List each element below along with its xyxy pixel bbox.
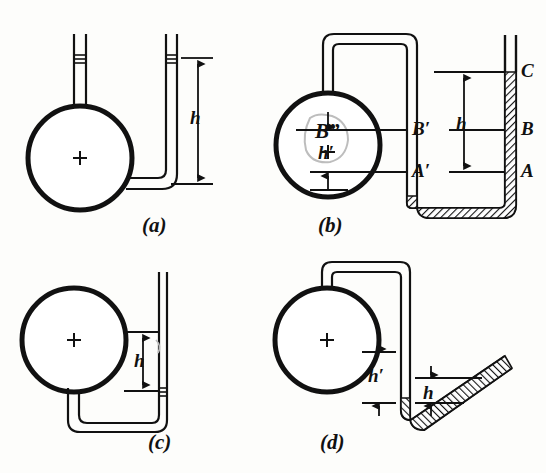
panel-caption-c: (c) (148, 430, 171, 455)
panel-b-drawing (276, 34, 516, 218)
panel-a-left-tube-constriction (74, 55, 86, 63)
panel-b-level-a-prime-label: A′ (412, 160, 430, 182)
panel-c-drawing (22, 272, 167, 432)
panel-caption-b: (b) (318, 213, 343, 238)
panel-b-level-a-label: A (521, 160, 534, 182)
panel-b-blob-label: B” (315, 119, 340, 144)
panel-d-mercury-fill (401, 356, 512, 430)
panel-d-drawing (275, 262, 512, 430)
panel-b-h-label: h (456, 113, 467, 135)
panel-b-level-b-label: B (521, 118, 534, 140)
panel-b-level-b-prime-label: B′ (412, 118, 430, 140)
panel-a-left-tube (74, 34, 86, 108)
panel-a-right-tube-constriction (166, 55, 177, 63)
panel-d-h-label: h (423, 382, 434, 404)
apparatus-diagram-svg (0, 0, 546, 473)
panel-caption-a: (a) (142, 213, 167, 238)
panel-b-h-prime-label: h′ (318, 142, 334, 164)
panel-a-drawing (28, 34, 213, 210)
panel-a-h-label: h (190, 107, 201, 129)
panel-c-h-label: h (134, 350, 145, 372)
panel-c-limb-marks (159, 388, 167, 396)
panel-d-h-prime-label: h′ (368, 365, 384, 387)
figure-container: (a) (b) (c) (d) h h h′ B” B′ A′ C B A h … (0, 0, 546, 473)
panel-b-level-c-label: C (521, 60, 534, 82)
panel-caption-d: (d) (320, 430, 345, 455)
panel-b-mercury-fill (407, 72, 516, 218)
panel-b-right-limb-top (505, 35, 516, 72)
